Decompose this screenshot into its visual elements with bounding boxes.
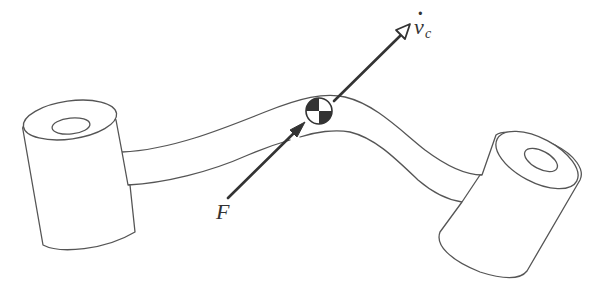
left-cylinder-boss [21,95,135,250]
velocity-dot: · [417,2,424,24]
link-diagram: F v · c [0,0,594,289]
velocity-subscript: c [425,26,432,41]
center-of-mass-symbol [306,98,332,124]
force-label: F [215,199,230,224]
acceleration-label: v · c [414,2,432,41]
curved-beam [122,95,482,202]
beam-lower-edge-right [300,131,462,202]
force-arrow-shaft [228,131,296,198]
beam-upper-edge [122,95,482,175]
force-arrow [228,122,305,198]
right-cylinder-boss [439,119,587,277]
acceleration-arrow-shaft [334,36,400,101]
acceleration-arrow [334,24,410,101]
